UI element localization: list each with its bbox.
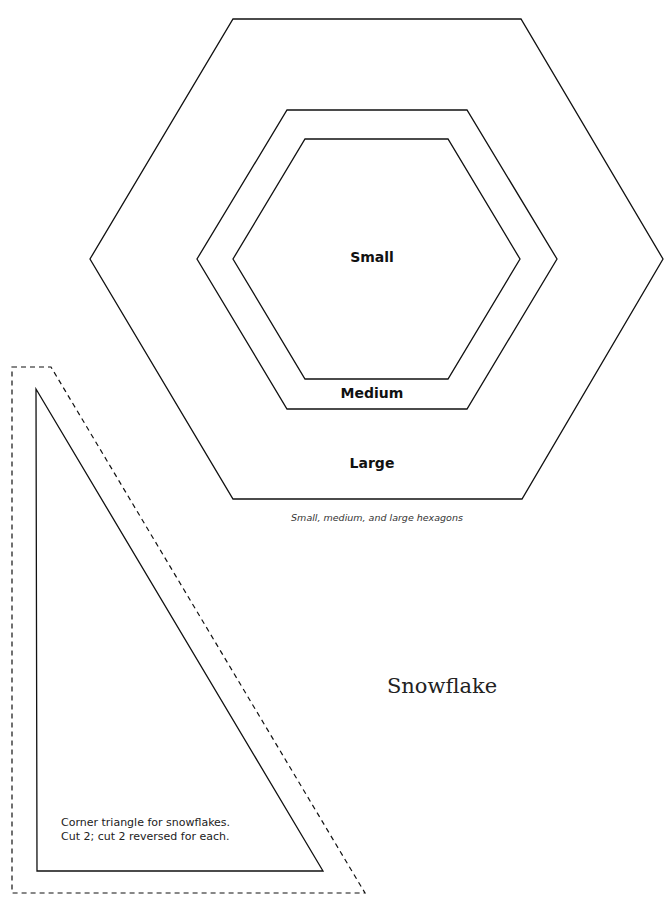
medium-hexagon-label: Medium (341, 385, 404, 401)
pattern-sheet: Small Medium Large Small, medium, and la… (0, 0, 669, 910)
triangle-cut-line (12, 367, 365, 893)
small-hexagon-label: Small (350, 249, 394, 265)
triangle-note-line-2: Cut 2; cut 2 reversed for each. (61, 830, 229, 843)
triangle-sew-line (36, 389, 323, 871)
hexagons-caption: Small, medium, and large hexagons (291, 512, 463, 523)
block-title: Snowflake (387, 674, 497, 698)
triangle-note-line-1: Corner triangle for snowflakes. (61, 816, 230, 829)
large-hexagon-label: Large (350, 455, 395, 471)
